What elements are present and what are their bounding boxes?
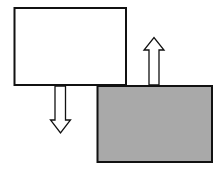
down-arrow-icon [51,86,71,133]
up-arrow-icon [144,38,164,86]
diagram-canvas [0,0,220,170]
white-box [15,8,127,85]
gray-box [98,86,213,162]
